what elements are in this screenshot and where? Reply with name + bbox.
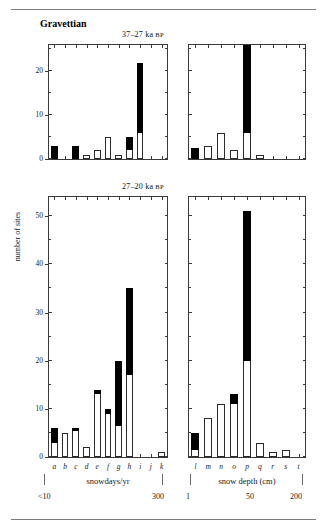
x-tick bbox=[162, 156, 163, 159]
y-tick-minor bbox=[189, 239, 191, 240]
y-tick-minor bbox=[49, 360, 51, 361]
y-tick-right bbox=[165, 158, 167, 159]
panel-top-left bbox=[48, 44, 168, 160]
bar-filled-segment bbox=[243, 45, 251, 133]
y-tick-minor bbox=[49, 158, 51, 159]
x-range-right-end: 200 bbox=[290, 492, 302, 501]
y-tick-label: 20 bbox=[26, 356, 43, 365]
x-tick bbox=[151, 454, 152, 457]
bar-a bbox=[51, 146, 58, 159]
bar-filled-segment bbox=[72, 146, 79, 159]
range-tick-left-end bbox=[162, 474, 163, 485]
y-tick-right bbox=[303, 239, 305, 240]
x-tick-top bbox=[76, 45, 77, 48]
panel-top-right bbox=[188, 44, 306, 160]
y-tick-label: 0 bbox=[26, 452, 43, 461]
y-tick-right bbox=[165, 92, 167, 93]
x-tick-top bbox=[162, 45, 163, 48]
y-tick-minor bbox=[189, 158, 191, 159]
x-tick-top bbox=[119, 197, 120, 200]
panel-bottom-left bbox=[48, 196, 168, 458]
bar-n bbox=[217, 404, 225, 457]
y-tick-right bbox=[303, 70, 305, 71]
y-tick-right bbox=[303, 432, 305, 433]
x-tick bbox=[299, 454, 300, 457]
y-tick-minor bbox=[189, 215, 191, 216]
bottom-rule bbox=[11, 519, 316, 520]
panel-title-bottom: 27–20 ka BP bbox=[122, 182, 164, 191]
bar-h bbox=[126, 137, 133, 159]
y-tick-minor bbox=[49, 70, 51, 71]
x-tick-top bbox=[129, 45, 130, 48]
y-tick-minor bbox=[189, 432, 191, 433]
bar-q bbox=[256, 443, 264, 457]
x-axis-name-right: snow depth (cm) bbox=[188, 476, 306, 486]
y-tick-outer bbox=[45, 216, 48, 217]
plot-area-bottom-left bbox=[49, 197, 167, 457]
bar-filled-segment bbox=[230, 394, 238, 404]
y-tick-outer bbox=[45, 409, 48, 410]
bar-filled-segment bbox=[115, 361, 122, 426]
figure-root: Gravettian 37–27 ka BP 27–20 ka BP numbe… bbox=[0, 0, 327, 530]
x-tick-top bbox=[54, 45, 55, 48]
y-tick-right bbox=[165, 312, 167, 313]
y-tick-right bbox=[303, 158, 305, 159]
plot-area-bottom-right bbox=[189, 197, 305, 457]
y-tick-outer bbox=[45, 115, 48, 116]
y-tick-minor bbox=[189, 114, 191, 115]
x-tick-top bbox=[129, 197, 130, 200]
y-tick-right bbox=[303, 384, 305, 385]
x-tick bbox=[286, 156, 287, 159]
bar-e bbox=[94, 390, 101, 457]
y-tick-minor bbox=[189, 336, 191, 337]
x-category-label-n: n bbox=[214, 462, 228, 471]
y-tick-label: 30 bbox=[26, 308, 43, 317]
x-tick-top bbox=[273, 45, 274, 48]
y-tick-minor bbox=[49, 287, 51, 288]
y-tick-right bbox=[303, 312, 305, 313]
x-tick-top bbox=[76, 197, 77, 200]
bar-e bbox=[94, 150, 101, 159]
x-tick-top bbox=[286, 197, 287, 200]
bar-c bbox=[72, 428, 79, 457]
x-category-label-o: o bbox=[227, 462, 241, 471]
x-tick-top bbox=[208, 45, 209, 48]
x-tick-top bbox=[108, 45, 109, 48]
x-tick-top bbox=[65, 197, 66, 200]
y-tick-label: 50 bbox=[26, 211, 43, 220]
y-tick-minor bbox=[189, 70, 191, 71]
y-tick-label: 20 bbox=[26, 66, 43, 75]
range-tick-right-end bbox=[302, 474, 303, 485]
y-tick-outer bbox=[45, 264, 48, 265]
x-tick bbox=[273, 156, 274, 159]
y-tick-minor bbox=[49, 48, 51, 49]
title-bottom-text: 27–20 ka bbox=[122, 182, 155, 191]
y-tick-minor bbox=[189, 360, 191, 361]
bar-filled-segment bbox=[126, 288, 133, 375]
x-range-right-start: 1 bbox=[186, 492, 190, 501]
y-tick-right bbox=[165, 456, 167, 457]
y-tick-right bbox=[165, 287, 167, 288]
y-tick-minor bbox=[189, 136, 191, 137]
y-tick-right bbox=[165, 48, 167, 49]
bar-o bbox=[230, 150, 238, 159]
y-tick-right bbox=[303, 48, 305, 49]
y-tick-right bbox=[165, 70, 167, 71]
panel-title-top: 37–27 ka BP bbox=[122, 30, 164, 39]
y-tick-minor bbox=[189, 287, 191, 288]
bar-g bbox=[115, 361, 122, 457]
bar-filled-segment bbox=[137, 63, 144, 133]
bar-b bbox=[62, 433, 69, 457]
x-category-label-m: m bbox=[201, 462, 215, 471]
range-tick-right-start bbox=[190, 474, 191, 485]
y-tick-right bbox=[165, 136, 167, 137]
bar-l bbox=[191, 148, 199, 159]
y-tick-minor bbox=[189, 312, 191, 313]
y-axis-label: number of sites bbox=[13, 192, 22, 282]
x-tick-top bbox=[195, 45, 196, 48]
bar-d bbox=[83, 155, 90, 159]
range-tick-left-start bbox=[44, 474, 45, 485]
x-range-left-start: <10 bbox=[38, 492, 51, 501]
y-tick-label: 0 bbox=[26, 154, 43, 163]
x-category-label-s: s bbox=[279, 462, 293, 471]
